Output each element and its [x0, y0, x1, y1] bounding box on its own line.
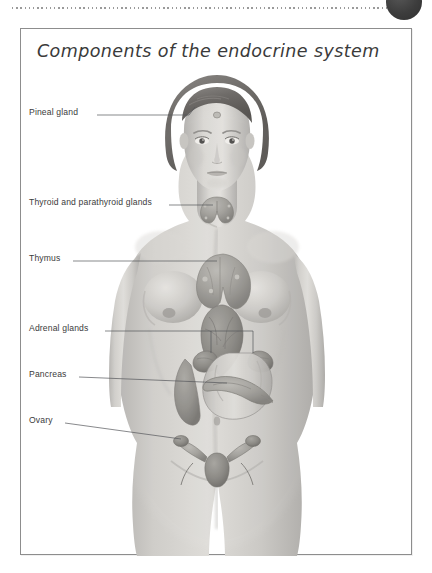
top-dotted-rule [12, 7, 412, 9]
endocrine-figure-illustration [21, 29, 413, 556]
callout-label-ovary: Ovary [29, 415, 53, 425]
callout-label-pancreas: Pancreas [29, 369, 67, 379]
leader-pineal-gland [97, 107, 195, 115]
diagram-panel: Components of the endocrine system [20, 28, 412, 555]
callout-label-thymus: Thymus [29, 253, 60, 263]
callout-label-thyroid-parathyroid-glands: Thyroid and parathyroid glands [29, 197, 152, 207]
illustration-stage [21, 29, 413, 556]
callout-label-adrenal-glands: Adrenal glands [29, 323, 88, 333]
corner-dot-marker [386, 0, 422, 20]
body-figure [99, 75, 335, 556]
callout-label-pineal-gland: Pineal gland [29, 107, 78, 117]
